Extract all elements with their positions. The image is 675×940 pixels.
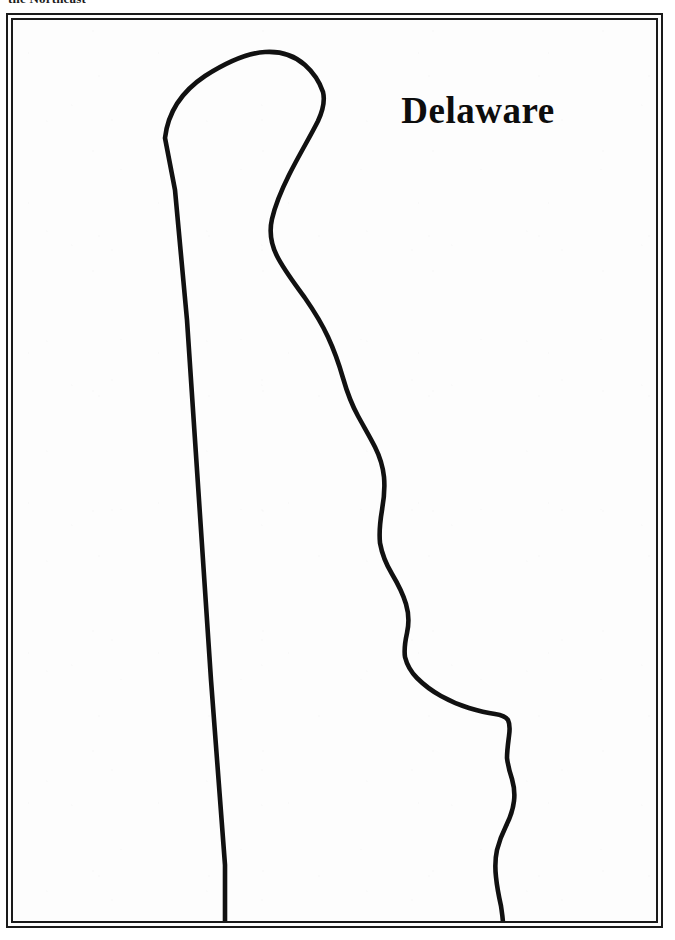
map-plate-inner-frame: Delaware (11, 18, 658, 923)
state-outline-map (13, 20, 658, 923)
map-plate-outer-frame: Delaware (6, 13, 663, 928)
running-head: the Northeast (8, 0, 86, 7)
state-title-label: Delaware (368, 92, 588, 129)
delaware-boundary-path (165, 52, 514, 923)
